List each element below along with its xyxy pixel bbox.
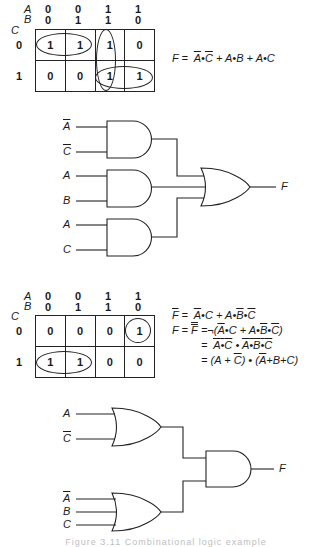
- kmap2-row-1: 1: [16, 357, 22, 368]
- eq-rparen: ): [279, 324, 283, 336]
- eq-a: A: [249, 324, 256, 336]
- eq-a: A: [214, 354, 221, 366]
- eq-c: C: [205, 309, 213, 321]
- eq-dot: •: [248, 354, 252, 366]
- eq-plus: +: [216, 309, 222, 321]
- c1-input-a: A: [63, 170, 70, 181]
- eq-c: C: [224, 339, 232, 351]
- eq-sign: =: [182, 324, 188, 336]
- kmap2-colB-0: 0: [45, 302, 51, 313]
- eq-sign: =: [201, 354, 207, 366]
- eq-a-bar: A: [194, 309, 201, 321]
- eq-f-bar: F: [172, 309, 179, 321]
- or-gate-2: [112, 408, 161, 446]
- kmap2-colB-3: 0: [135, 302, 141, 313]
- eq-dot: •: [235, 339, 239, 351]
- eq-b: B: [273, 354, 280, 366]
- figure-caption: Figure 3.11 Combinational logic example: [0, 537, 332, 547]
- kmap2-var-b: B: [24, 301, 31, 312]
- c1-input-c-bar: C: [63, 146, 71, 157]
- kmap2-var-c: C: [11, 311, 19, 322]
- c1-input-a2: A: [63, 219, 70, 230]
- eq-rparen: ): [242, 354, 246, 366]
- and-gate-4: [206, 451, 251, 487]
- equation-2-line-3: = A•C • A•B•C: [201, 338, 272, 352]
- kmap2-cell: 0: [95, 316, 125, 347]
- c2-input-b: B: [63, 506, 70, 517]
- eq-rparen: ): [294, 354, 298, 366]
- eq-c-bar: C: [271, 324, 279, 336]
- or-gate-1: [201, 168, 250, 206]
- eq-term-bar: A•C: [213, 339, 232, 351]
- kmap2-row-0: 0: [16, 326, 22, 337]
- eq-c-bar: C: [264, 339, 272, 351]
- eq-a-bar: A: [217, 324, 224, 336]
- and-gate-2: [107, 170, 152, 207]
- c1-input-b: B: [63, 195, 70, 206]
- kmap2-group-circle: [125, 318, 151, 343]
- kmap2-group-oval: [36, 351, 92, 374]
- eq-term-bar: A•B•C: [242, 339, 272, 351]
- kmap2-cell: 0: [65, 316, 95, 347]
- kmap2-colB-2: 1: [105, 302, 111, 313]
- eq-c: C: [229, 324, 237, 336]
- eq-c-bar: C: [247, 309, 255, 321]
- equation-2-line-2: F = F =¬(A•C + A•B•C): [172, 323, 283, 337]
- c2-input-c: C: [63, 519, 71, 530]
- c1-output-f: F: [281, 181, 288, 192]
- eq-b-bar: B: [236, 309, 243, 321]
- eq-sign: =: [201, 339, 207, 351]
- c2-input-a-bar: A: [63, 493, 70, 504]
- c1-input-c: C: [63, 244, 71, 255]
- c2-input-c-bar: C: [63, 433, 71, 444]
- kmap2-colB-1: 1: [75, 302, 81, 313]
- eq-a-bar: A: [213, 339, 220, 351]
- eq-plus: +: [224, 354, 230, 366]
- c1-input-a-bar: A: [63, 121, 70, 132]
- equation-2-line-1: F = A•C + A•B•C: [172, 308, 255, 322]
- or-gate-3: [112, 493, 161, 531]
- and-gate-3: [107, 219, 152, 256]
- and-gate-1: [107, 121, 152, 158]
- eq-sign: =: [182, 309, 188, 321]
- equation-2-line-4: = (A + C) • (A+B+C): [201, 353, 298, 367]
- c2-input-a: A: [63, 408, 70, 419]
- eq-f: F: [172, 324, 179, 336]
- eq-f-double-bar: F: [191, 323, 198, 337]
- kmap2-cell: 0: [95, 347, 125, 378]
- kmap2-cell: 0: [125, 347, 155, 378]
- eq-plus: +: [240, 324, 246, 336]
- eq-c-bar: C: [234, 354, 242, 366]
- kmap2-cell: 0: [36, 316, 66, 347]
- c2-output-f: F: [279, 463, 286, 474]
